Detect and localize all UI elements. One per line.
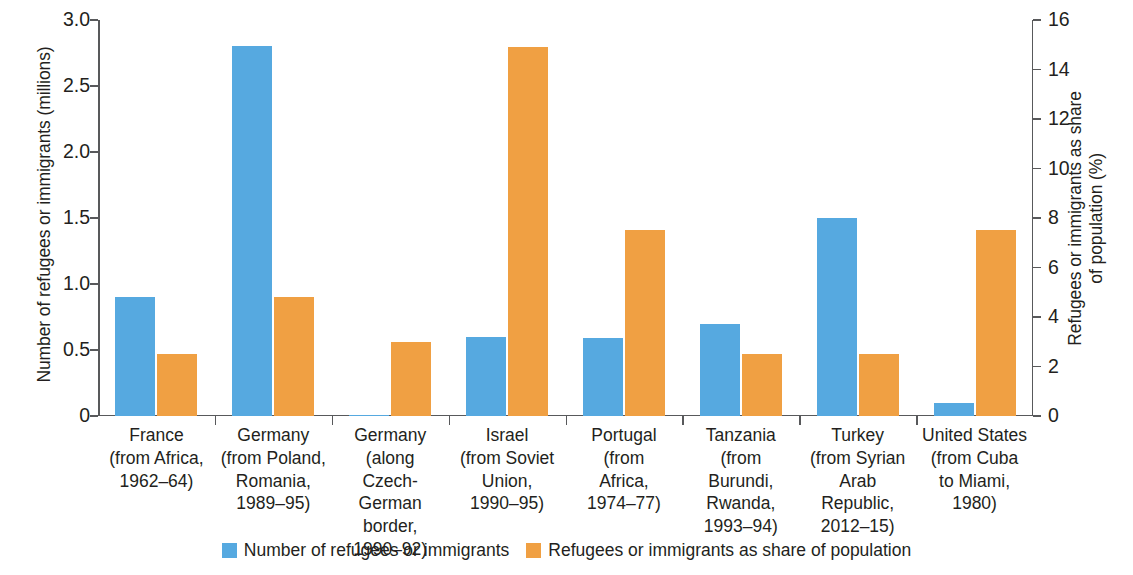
x-axis-category-label: Israel(from SovietUnion,1990–95) (449, 424, 566, 515)
chart-figure: Number of refugees or immigrants (millio… (0, 0, 1133, 575)
x-axis-category-label-line: 1974–77) (566, 492, 683, 515)
y-axis-left-tick-label: 1.5 (28, 208, 90, 228)
y-axis-right-tick-mark (1033, 69, 1041, 71)
x-axis-category-label: Germany(from Poland,Romania,1989–95) (215, 424, 332, 515)
y-axis-left-tick-mark (90, 415, 98, 417)
legend-label: Number of refugees or immigrants (244, 540, 510, 561)
x-axis-category-label-line: Israel (449, 424, 566, 447)
y-axis-left-tick-label: 0 (28, 406, 90, 426)
x-axis-category-label-line: (from Syrian (799, 447, 916, 470)
y-axis-right-tick-mark (1033, 217, 1041, 219)
y-axis-right-tick-label: 6 (1048, 258, 1100, 278)
y-axis-right-tick-mark (1033, 19, 1041, 21)
x-axis-category-label-line: France (98, 424, 215, 447)
x-axis-category-label: Portugal(fromAfrica,1974–77) (566, 424, 683, 515)
legend-swatch-icon (526, 543, 541, 558)
bar-number-of-refugees (583, 338, 623, 416)
bar-series-group (98, 20, 1033, 416)
x-axis-category-labels: France(from Africa,1962–64)Germany(from … (98, 424, 1033, 532)
x-axis-category-label-line: Rwanda, (682, 492, 799, 515)
x-axis-category-label-line: to Miami, (916, 470, 1033, 493)
bar-number-of-refugees (115, 297, 155, 416)
x-axis-category-label-line: Germany (215, 424, 332, 447)
x-axis-category-label-line: Republic, (799, 492, 916, 515)
x-axis-category-label-line: Africa, (566, 470, 683, 493)
y-axis-right-tick-labels: 0246810121416 (1048, 0, 1100, 575)
y-axis-right-tick-label: 8 (1048, 208, 1100, 228)
y-axis-left-tick-mark (90, 217, 98, 219)
y-axis-right-tick-label: 2 (1048, 357, 1100, 377)
x-axis-category-label: United States(from Cubato Miami,1980) (916, 424, 1033, 515)
x-axis-category-label-line: Turkey (799, 424, 916, 447)
x-axis-category-label-line: 1993–94) (682, 515, 799, 538)
y-axis-left-tick-label: 2.5 (28, 76, 90, 96)
y-axis-left-tick-mark (90, 19, 98, 21)
bar-share-of-population (391, 342, 431, 416)
legend-swatch-icon (222, 543, 237, 558)
x-axis-category-label-line: 1980) (916, 492, 1033, 515)
y-axis-left-tick-label: 2.0 (28, 142, 90, 162)
bar-share-of-population (157, 354, 197, 416)
legend-label: Refugees or immigrants as share of popul… (548, 540, 911, 561)
y-axis-right-tick-label: 14 (1048, 60, 1100, 80)
bar-share-of-population (625, 230, 665, 416)
y-axis-left-tick-label: 1.0 (28, 274, 90, 294)
x-axis-category-label-line: 1990–95) (449, 492, 566, 515)
bar-number-of-refugees (700, 324, 740, 416)
x-axis-category-label-line: United States (916, 424, 1033, 447)
bar-number-of-refugees (349, 415, 389, 417)
x-axis-category-label-line: 1962–64) (98, 470, 215, 493)
x-axis-category-label-line: (from Soviet (449, 447, 566, 470)
x-axis-category-label-line: (from Cuba (916, 447, 1033, 470)
legend-entry[interactable]: Number of refugees or immigrants (222, 540, 510, 561)
bar-share-of-population (859, 354, 899, 416)
y-axis-left-tick-mark (90, 283, 98, 285)
y-axis-left-tick-mark (90, 349, 98, 351)
x-axis-category-label-line: (from (566, 447, 683, 470)
y-axis-right-tick-label: 16 (1048, 10, 1100, 30)
bar-share-of-population (508, 47, 548, 416)
x-axis-category-label-line: (from Africa, (98, 447, 215, 470)
y-axis-right-tick-label: 0 (1048, 406, 1100, 426)
y-axis-right-tick-mark (1033, 415, 1041, 417)
y-axis-left-tick-label: 0.5 (28, 340, 90, 360)
y-axis-right-tick-mark (1033, 118, 1041, 120)
bar-number-of-refugees (934, 403, 974, 416)
y-axis-left-tick-mark (90, 151, 98, 153)
y-axis-left-tick-mark (90, 85, 98, 87)
x-axis-category-label-line: 2012–15) (799, 515, 916, 538)
y-axis-right-tick-label: 12 (1048, 109, 1100, 129)
y-axis-right-tick-mark (1033, 168, 1041, 170)
x-axis-category-label-line: Germany (332, 424, 449, 447)
x-axis-category-label: Turkey(from SyrianArabRepublic,2012–15) (799, 424, 916, 538)
bar-number-of-refugees (466, 337, 506, 416)
x-axis-category-label: France(from Africa,1962–64) (98, 424, 215, 492)
y-axis-right-tick-mark (1033, 366, 1041, 368)
bar-share-of-population (976, 230, 1016, 416)
legend-entry[interactable]: Refugees or immigrants as share of popul… (526, 540, 911, 561)
bar-share-of-population (742, 354, 782, 416)
x-axis-category-label-line: (along (332, 447, 449, 470)
y-axis-right-tick-mark (1033, 267, 1041, 269)
chart-legend: Number of refugees or immigrantsRefugees… (0, 540, 1133, 561)
y-axis-left-tick-label: 3.0 (28, 10, 90, 30)
plot-area (98, 20, 1033, 416)
x-axis-category-label-line: Tanzania (682, 424, 799, 447)
x-axis-category-label-line: (from Poland, (215, 447, 332, 470)
bar-share-of-population (274, 297, 314, 416)
x-axis-category-label-line: Romania, (215, 470, 332, 493)
x-axis-category-label-line: border, (332, 515, 449, 538)
x-axis-category-label-line: Czech-German (332, 470, 449, 516)
x-axis-category-label-line: Burundi, (682, 470, 799, 493)
bar-number-of-refugees (232, 46, 272, 416)
y-axis-right-tick-mark (1033, 316, 1041, 318)
x-axis-category-label: Tanzania(fromBurundi,Rwanda,1993–94) (682, 424, 799, 538)
x-axis-category-label-line: 1989–95) (215, 492, 332, 515)
y-axis-right-tick-label: 10 (1048, 159, 1100, 179)
bar-number-of-refugees (817, 218, 857, 416)
x-axis-category-label-line: Union, (449, 470, 566, 493)
x-axis-category-label-line: (from (682, 447, 799, 470)
y-axis-left-tick-labels: 00.51.01.52.02.53.0 (28, 0, 90, 575)
x-axis-category-label-line: Arab (799, 470, 916, 493)
y-axis-right-tick-label: 4 (1048, 307, 1100, 327)
